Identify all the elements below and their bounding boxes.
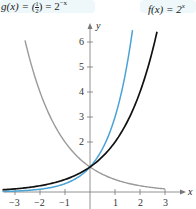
g-label-exp: −x bbox=[60, 0, 67, 7]
f-label: f(x) = 2 bbox=[148, 3, 182, 15]
g-function-label: g(x) = (12) = 2−x bbox=[1, 0, 67, 14]
curve-three-power bbox=[3, 30, 133, 191]
y-axis-label: y bbox=[96, 20, 100, 32]
g-label-right: ) = 2 bbox=[39, 0, 60, 12]
x-tick-label: −3 bbox=[9, 198, 20, 208]
f-function-label: f(x) = 2x bbox=[148, 0, 185, 15]
y-axis-arrow-icon bbox=[88, 23, 93, 29]
y-tick-label: 2 bbox=[79, 137, 84, 147]
x-tick-label: 1 bbox=[113, 198, 118, 208]
curve-g-half-power bbox=[25, 40, 165, 188]
x-axis-arrow-icon bbox=[180, 190, 186, 195]
y-tick-label: 3 bbox=[79, 112, 84, 122]
x-tick-label: 3 bbox=[163, 198, 168, 208]
g-label-left: g(x) = ( bbox=[1, 0, 35, 12]
x-tick-label: −2 bbox=[34, 198, 45, 208]
y-tick-label: 6 bbox=[79, 37, 84, 47]
y-tick-label: 5 bbox=[79, 62, 84, 72]
x-tick-label: −1 bbox=[59, 198, 70, 208]
x-tick-label: 2 bbox=[138, 198, 143, 208]
y-tick-label: 4 bbox=[79, 87, 84, 97]
f-label-exp: x bbox=[182, 2, 185, 10]
x-axis-label: x bbox=[188, 186, 192, 198]
